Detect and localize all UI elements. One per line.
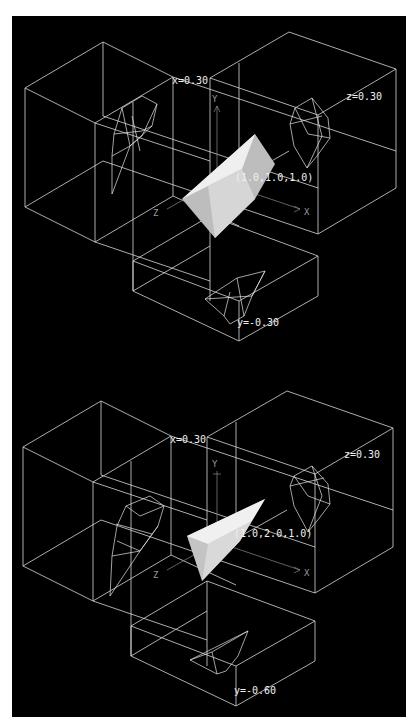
slice-z-label: z=0.30 [346, 91, 382, 102]
axis-x-label: X [304, 207, 310, 217]
slice-shape-z [290, 466, 330, 532]
slice-shape-x [112, 96, 157, 194]
slice-shape-z [290, 98, 330, 168]
slice-y-label: y=-0.60 [234, 685, 276, 696]
axis-x-label: X [304, 568, 310, 578]
visualization-canvas: Y X Z (1.0,1.0,1.0) x=0.30 z=0.30 y=-0.3… [12, 16, 406, 717]
solid-region [182, 134, 275, 238]
slice-z-label: z=0.30 [344, 449, 380, 460]
slice-y-label: y=-0.30 [237, 317, 279, 328]
top-panel: Y X Z (1.0,1.0,1.0) x=0.30 z=0.30 y=-0.3… [12, 16, 406, 356]
axis-y-label: Y [212, 94, 218, 104]
axis-y-label: Y [212, 459, 218, 469]
solid-region [187, 499, 265, 581]
slice-shape-x [110, 496, 164, 596]
point-label: (1.0,2.0,1.0) [234, 528, 312, 539]
axis-z-label: Z [153, 208, 159, 218]
bottom-panel: Y X Z (1.0,2.0,1.0) x=0.30 z=0.30 y=-0.6… [12, 356, 406, 716]
slice-x-label: x=0.30 [170, 434, 206, 445]
axis-z-label: Z [153, 570, 159, 580]
point-label: (1.0,1.0,1.0) [235, 172, 313, 183]
slice-x-label: x=0.30 [172, 75, 208, 86]
